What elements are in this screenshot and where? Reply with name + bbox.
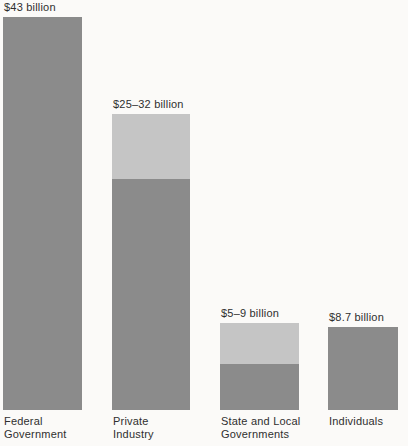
- value-label-federal-government: $43 billion: [4, 2, 56, 13]
- value-label-individuals: $8.7 billion: [329, 312, 384, 323]
- category-label-federal-government: Federal Government: [4, 415, 67, 441]
- category-label-line: State and Local: [221, 415, 300, 428]
- bar-group-federal-government: $43 billion Federal Government: [3, 0, 82, 446]
- category-label-line: Private: [113, 415, 154, 428]
- bar-segment-solid: [112, 179, 190, 410]
- bar-segment-range: [220, 323, 299, 364]
- value-label-state-local-governments: $5–9 billion: [221, 308, 279, 319]
- category-label-line: Federal: [4, 415, 67, 428]
- bar-group-individuals: $8.7 billion Individuals: [328, 0, 398, 446]
- category-label-line: Industry: [113, 428, 154, 441]
- bar-federal-government: [3, 17, 82, 410]
- category-label-private-industry: Private Industry: [113, 415, 154, 441]
- bar-segment-range: [112, 114, 190, 179]
- bar-group-private-industry: $25–32 billion Private Industry: [112, 0, 190, 446]
- bar-segment-solid: [220, 364, 299, 410]
- bar-segment-solid: [328, 327, 398, 410]
- bar-private-industry: [112, 114, 190, 410]
- category-label-line: Individuals: [329, 415, 383, 428]
- bar-individuals: [328, 327, 398, 410]
- category-label-line: Government: [4, 428, 67, 441]
- category-label-individuals: Individuals: [329, 415, 383, 428]
- category-label-line: Governments: [221, 428, 300, 441]
- bar-segment-solid: [3, 17, 82, 410]
- value-label-private-industry: $25–32 billion: [113, 99, 184, 110]
- bar-group-state-local-governments: $5–9 billion State and Local Governments: [220, 0, 299, 446]
- category-label-state-local-governments: State and Local Governments: [221, 415, 300, 441]
- bar-chart: $43 billion Federal Government $25–32 bi…: [0, 0, 408, 446]
- bar-state-local-governments: [220, 323, 299, 410]
